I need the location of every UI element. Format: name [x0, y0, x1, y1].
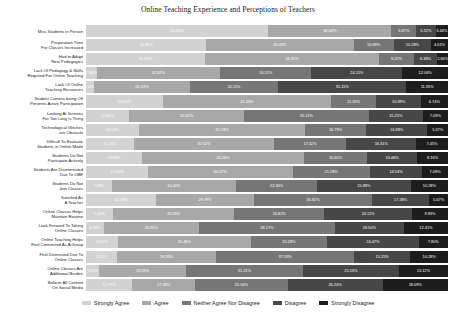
chart-container: Online Teaching Experience and Perceptio… [0, 0, 456, 323]
legend-label: Strongly Disagree [331, 300, 374, 306]
bar-segment: 5.67% [429, 194, 448, 206]
bar-segment: 14.89% [86, 152, 142, 164]
bar-row: Looking At Screens For Too Long Is Tirin… [86, 110, 448, 122]
bar-row: Online Classes Helps Maintain Routine7.4… [86, 208, 448, 220]
bar-value-label: 10.99% [367, 43, 380, 47]
bar-segment: 16.79% [305, 124, 366, 136]
category-label: Difficult To Evaluate Students in Online… [0, 139, 83, 149]
bar-value-label: 31.91% [139, 57, 152, 61]
bar-value-label: 25.53% [344, 269, 357, 273]
bar-segment: 32.62% [129, 110, 245, 122]
bar-value-label: 7.09% [430, 170, 441, 174]
bar-value-label: 12.06% [419, 71, 432, 75]
bar-segment: 34.04% [268, 25, 391, 37]
bar-segment: 26.24% [94, 81, 190, 93]
bar-row: Online Classes Are Additional Burden3.55… [86, 265, 448, 277]
bar-segment: 35.46% [118, 236, 251, 248]
bar-segment: 26.24% [288, 279, 383, 291]
bar-segment: 33.33% [113, 208, 234, 220]
bar-row: Difficult To Evaluate Students in Online… [86, 138, 448, 150]
bar-segment: 35.11% [244, 110, 368, 122]
category-label: Lack Of Online Teaching Resources [0, 82, 83, 92]
bar-segment: 4.96% [86, 222, 104, 234]
legend-label: Strongly Agree [94, 300, 129, 306]
bar-value-label: 25.89% [357, 184, 370, 188]
bar-value-label: 34.40% [167, 184, 180, 188]
bar-segment: 20.28% [251, 236, 327, 248]
bar-segment: 7.45% [416, 138, 448, 150]
bar-value-label: 24.11% [362, 212, 375, 216]
bar-segment: 10.28% [411, 180, 448, 192]
bar-segment: 7.09% [423, 110, 448, 122]
bar-value-label: 21.28% [325, 170, 338, 174]
bar-value-label: 10.28% [423, 184, 436, 188]
bar-value-label: 3.44% [436, 29, 447, 33]
bar-segment: 2.84% [437, 53, 448, 65]
bar-row: Satisfied As A Teacher21.28%29.79%35.82%… [86, 194, 448, 206]
bar-value-label: 16.79% [329, 128, 342, 132]
bar-value-label: 15.25% [376, 255, 389, 259]
bar-value-label: 38.17% [260, 226, 273, 230]
bar-value-label: 20.28% [282, 240, 295, 244]
bar-value-label: 16.60% [329, 156, 342, 160]
bar-value-label: 15.25% [389, 114, 402, 118]
bar-value-label: 5.67% [432, 128, 443, 132]
legend-item[interactable]: Strongly Disagree [319, 300, 374, 306]
bar-value-label: 35.11% [336, 85, 349, 89]
bar-value-label: 24.11% [350, 71, 363, 75]
bar-segment: 24.11% [190, 81, 278, 93]
bar-segment: 32.62% [134, 138, 273, 150]
legend-label: Disagree [285, 300, 307, 306]
bar-value-label: 5.67% [433, 198, 444, 202]
bar-value-label: 6.74% [429, 100, 440, 104]
legend-item[interactable]: Neither Agree Nor Disagree [182, 300, 260, 306]
legend-swatch-icon [319, 301, 328, 305]
bar-row: Believe All Content On Social Media12.77… [86, 279, 448, 291]
legend-item[interactable]: Agree [142, 300, 168, 306]
bar-value-label: 16.89% [390, 128, 403, 132]
category-label: Technological Glitches are Obstacle [0, 125, 83, 135]
bar-value-label: 24.82% [273, 212, 286, 216]
bar-segment: 24.11% [324, 208, 412, 220]
category-label: Online Teaching Helps Feel Connected As … [0, 237, 83, 247]
bar-value-label: 24.47% [366, 240, 379, 244]
bar-segment: 7.80% [419, 236, 448, 248]
bar-value-label: 35.82% [307, 198, 320, 202]
legend-item[interactable]: Disagree [273, 300, 307, 306]
bar-value-label: 50.35% [171, 29, 184, 33]
bar-value-label: 17.02% [304, 142, 317, 146]
bar-segment: 11.35% [331, 95, 377, 107]
bar-segment: 14.54% [370, 166, 423, 178]
bar-value-label: 14.54% [389, 170, 402, 174]
legend-item[interactable]: Strongly Agree [82, 300, 129, 306]
category-label: Students Are Disinterested Due To OBE [0, 167, 83, 177]
bar-value-label: 32.98% [140, 43, 153, 47]
bar-segment: 16.31% [346, 138, 416, 150]
bar-segment: 24.82% [234, 208, 324, 220]
bar-value-label: 7.09% [430, 114, 441, 118]
bar-value-label: 17.02% [110, 170, 123, 174]
bar-segment: 31.21% [186, 265, 303, 277]
bar-segment: 21.28% [86, 194, 156, 206]
bar-value-label: 26.24% [328, 283, 341, 287]
bar-segment: 31.91% [86, 53, 205, 65]
stacked-bar-plot-area: Miss Students in Person50.35%34.04%6.87%… [86, 25, 448, 293]
bar-value-label: 12.06% [101, 114, 114, 118]
bar-segment: 38.17% [199, 222, 334, 234]
bar-value-label: 26.95% [160, 255, 173, 259]
bar-segment: 13.12% [399, 265, 448, 277]
category-label: Looking At Screens For Too Long Is Tirin… [0, 111, 83, 121]
bar-segment: 9.93% [412, 208, 448, 220]
bar-value-label: 17.38% [394, 198, 407, 202]
bar-value-label: 22.34% [270, 184, 283, 188]
bar-segment: 10.28% [410, 251, 448, 263]
bar-value-label: 7.09% [93, 184, 104, 188]
bar-value-label: 19.15% [118, 100, 131, 104]
bar-value-label: 16.31% [375, 142, 388, 146]
bar-segment: 12.06% [86, 110, 129, 122]
bar-value-label: 40.07% [214, 170, 227, 174]
bar-segment: 17.38% [132, 279, 195, 291]
legend-label: Neither Agree Nor Disagree [194, 300, 260, 306]
bar-value-label: 19.50% [363, 226, 376, 230]
bar-value-label: 9.22% [391, 57, 402, 61]
